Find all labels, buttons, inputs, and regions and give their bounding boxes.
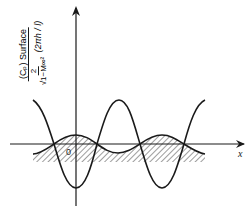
y-axis-label: (Cₚ) Surface 2 √1−M∞² (2πh / l) bbox=[6, 4, 60, 104]
y-label-den-num: 2 bbox=[29, 67, 39, 75]
y-label-denominator: 2 √1−M∞² (2πh / l) bbox=[29, 19, 48, 90]
y-label-numerator: (Cₚ) Surface bbox=[18, 27, 29, 81]
y-label-den-den: √1−M∞² bbox=[39, 55, 48, 88]
x-axis-label: x bbox=[238, 148, 242, 159]
origin-label: 0 bbox=[66, 147, 71, 157]
y-label-paren: (2πh / l) bbox=[33, 21, 43, 53]
